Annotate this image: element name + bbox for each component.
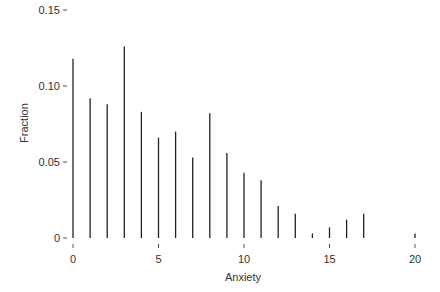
chart: 00.050.100.15 05101520 Fraction Anxiety [0,0,440,292]
bars [73,46,415,238]
x-tick-label: 0 [70,253,76,265]
y-tick-label: 0.05 [39,156,60,168]
y-tick-label: 0.15 [39,4,60,16]
y-tick-label: 0 [54,232,60,244]
y-axis: 00.050.100.15 [39,4,67,244]
x-tick-label: 20 [409,253,421,265]
y-axis-label: Fraction [18,103,30,143]
x-axis: 05101520 [70,244,421,265]
x-tick-label: 15 [323,253,335,265]
y-tick-label: 0.10 [39,80,60,92]
x-tick-label: 5 [155,253,161,265]
x-axis-label: Anxiety [225,271,262,283]
x-tick-label: 10 [238,253,250,265]
